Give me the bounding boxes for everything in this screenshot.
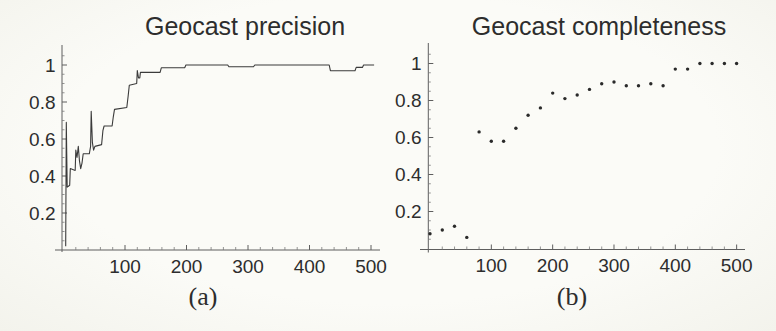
series-completeness-point <box>563 97 566 100</box>
x-tick-label: 500 <box>721 255 753 276</box>
series-completeness-point <box>441 228 444 231</box>
y-tick-label: 0.8 <box>29 92 55 113</box>
x-tick-label: 200 <box>537 255 569 276</box>
series-completeness-point <box>490 140 493 143</box>
y-tick-label: 0.2 <box>395 201 421 222</box>
y-tick-label: 0.6 <box>395 127 421 148</box>
series-completeness-point <box>612 80 615 83</box>
series-completeness-point <box>428 232 431 235</box>
series-completeness-point <box>502 140 505 143</box>
series-completeness-point <box>661 84 664 87</box>
series-completeness-point <box>576 93 579 96</box>
x-tick-label: 100 <box>475 255 507 276</box>
y-tick-label: 0.8 <box>395 90 421 111</box>
x-tick-label: 400 <box>659 255 691 276</box>
series-completeness-point <box>477 130 480 133</box>
y-tick-label: 0.6 <box>29 129 55 150</box>
chart-a-caption: (a) <box>153 283 253 312</box>
series-completeness-point <box>600 82 603 85</box>
series-precision-line <box>66 65 374 246</box>
series-completeness-point <box>514 127 517 130</box>
chart-b-title: Geocast completeness <box>439 13 759 41</box>
series-completeness-point <box>625 84 628 87</box>
chart-b-caption: (b) <box>522 283 622 312</box>
series-completeness-point <box>637 84 640 87</box>
x-tick-label: 100 <box>109 256 141 277</box>
chart-b: 1002003004005000.20.40.60.81 <box>395 43 752 276</box>
series-completeness-point <box>674 67 677 70</box>
x-tick-label: 300 <box>598 255 630 276</box>
chart-a: 1002003004005000.20.40.60.81 <box>29 45 387 277</box>
y-tick-label: 0.2 <box>29 203 55 224</box>
series-completeness-point <box>588 88 591 91</box>
y-tick-label: 1 <box>411 53 422 74</box>
series-completeness-point <box>539 106 542 109</box>
y-tick-label: 1 <box>45 55 56 76</box>
x-tick-label: 300 <box>232 256 264 277</box>
series-completeness-point <box>453 225 456 228</box>
y-tick-label: 0.4 <box>29 166 56 187</box>
x-tick-label: 500 <box>355 256 387 277</box>
series-completeness-point <box>465 236 468 239</box>
x-tick-label: 400 <box>294 256 326 277</box>
series-completeness-point <box>551 91 554 94</box>
geocast-figure: 1002003004005000.20.40.60.81100200300400… <box>0 0 776 331</box>
series-completeness-point <box>649 82 652 85</box>
series-completeness-point <box>698 62 701 65</box>
x-tick-label: 200 <box>171 256 203 277</box>
series-completeness-point <box>686 67 689 70</box>
series-completeness-point <box>710 62 713 65</box>
series-completeness-point <box>735 62 738 65</box>
y-tick-label: 0.4 <box>395 164 422 185</box>
chart-a-title: Geocast precision <box>85 13 405 41</box>
plots-canvas: 1002003004005000.20.40.60.81100200300400… <box>0 0 776 331</box>
series-completeness-point <box>723 62 726 65</box>
series-completeness-point <box>526 114 529 117</box>
